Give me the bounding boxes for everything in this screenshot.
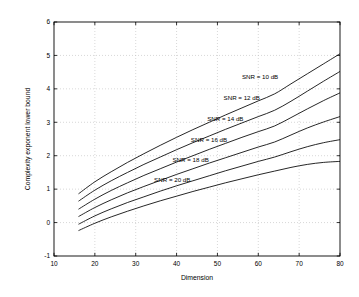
- series-annotation-6: SNR = 20 dB: [154, 176, 190, 183]
- x-tick-label: 70: [296, 260, 304, 267]
- figure-container: 1020304050607080-10123456DimensionComple…: [0, 0, 359, 297]
- series-annotation-1: SNR = 10 dB: [242, 73, 278, 80]
- x-tick-label: 50: [214, 260, 222, 267]
- series-annotation-3: SNR = 14 dB: [207, 115, 243, 122]
- y-tick-label: 0: [46, 219, 50, 226]
- y-tick-label: 6: [46, 18, 50, 25]
- x-tick-label: 60: [255, 260, 263, 267]
- x-tick-label: 30: [132, 260, 140, 267]
- y-tick-label: -1: [44, 252, 50, 259]
- series-annotation-2: SNR = 12 dB: [224, 94, 260, 101]
- y-tick-label: 3: [46, 119, 50, 126]
- y-tick-label: 5: [46, 52, 50, 59]
- x-tick-label: 20: [91, 260, 99, 267]
- series-annotation-5: SNR = 18 dB: [172, 156, 208, 163]
- x-axis-title: Dimension: [181, 274, 213, 281]
- y-axis-title: Complexity exponent lower bound: [24, 88, 32, 191]
- x-tick-label: 40: [173, 260, 181, 267]
- x-tick-label: 80: [336, 260, 344, 267]
- x-tick-label: 10: [50, 260, 58, 267]
- series-annotation-4: SNR = 16 dB: [191, 136, 227, 143]
- y-tick-label: 4: [46, 85, 50, 92]
- y-tick-label: 1: [46, 185, 50, 192]
- y-tick-label: 2: [46, 152, 50, 159]
- chart-canvas: 1020304050607080-10123456DimensionComple…: [0, 0, 359, 297]
